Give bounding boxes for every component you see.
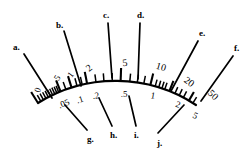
pointer-f: f. [234, 44, 239, 53]
leader-d [138, 23, 140, 79]
tick-mark-major [189, 92, 194, 101]
tick-mark-minor [144, 76, 146, 84]
tick-mark-major [85, 72, 87, 84]
pointer-g: g. [87, 135, 94, 144]
pointer-b: b. [56, 21, 63, 30]
tick-mark-minor [130, 74, 131, 82]
pointer-j: j. [157, 139, 162, 148]
leader-c [108, 23, 112, 78]
pointer-d: d. [137, 11, 144, 20]
leader-g [65, 105, 87, 130]
tick-mark-major [150, 73, 153, 85]
pointer-h: h. [110, 131, 117, 140]
lower-p5: .5 [121, 90, 128, 99]
pointer-e: e. [199, 29, 205, 38]
leader-h [99, 98, 112, 126]
tick-mark-minor [103, 73, 104, 81]
scale-diagram: 0.5125102050 .05.1.2.5125 a.b.c.d.e.f.g.… [0, 0, 252, 159]
pointer-c: c. [103, 11, 109, 20]
leader-j [158, 105, 184, 133]
lower-p2: .2 [92, 91, 100, 101]
tick-mark-major [31, 92, 38, 103]
tick-mark-minor [95, 74, 96, 82]
scale-drawing [0, 0, 252, 159]
pointer-i: i. [134, 131, 139, 140]
pointer-a: a. [13, 43, 20, 52]
upper-5: 5 [122, 58, 128, 68]
leader-i [129, 96, 136, 126]
